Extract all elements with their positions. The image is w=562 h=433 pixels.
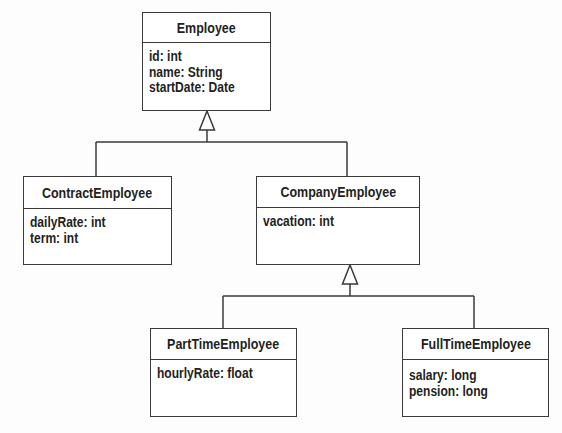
attribute: startDate: Date xyxy=(149,80,253,96)
class-attributes: salary: long pension: long xyxy=(403,360,548,399)
attribute: name: String xyxy=(149,65,253,81)
class-name-header: FullTimeEmployee xyxy=(403,329,548,360)
uml-class-diagram: Employee id: int name: String startDate:… xyxy=(0,0,562,433)
attribute: pension: long xyxy=(409,384,529,400)
class-name: PartTimeEmployee xyxy=(167,336,279,352)
attribute: hourlyRate: float xyxy=(157,366,277,382)
generalization-arrow-company-employee xyxy=(223,265,474,328)
hollow-triangle-arrowhead-icon xyxy=(200,111,215,130)
attribute: dailyRate: int xyxy=(30,215,151,231)
class-name: CompanyEmployee xyxy=(280,184,396,200)
class-name-header: PartTimeEmployee xyxy=(151,329,296,360)
attribute: term: int xyxy=(30,231,151,247)
attribute: id: int xyxy=(149,49,253,65)
class-attributes: vacation: int xyxy=(257,208,419,230)
class-name-header: ContractEmployee xyxy=(24,177,171,209)
class-attributes: dailyRate: int term: int xyxy=(24,209,171,246)
class-attributes: id: int name: String startDate: Date xyxy=(143,43,270,96)
class-employee: Employee id: int name: String startDate:… xyxy=(142,12,271,111)
class-full-time-employee: FullTimeEmployee salary: long pension: l… xyxy=(402,328,549,417)
class-company-employee: CompanyEmployee vacation: int xyxy=(256,176,420,265)
attribute: salary: long xyxy=(409,368,529,384)
class-attributes: hourlyRate: float xyxy=(151,360,296,382)
attribute: vacation: int xyxy=(263,214,397,230)
hollow-triangle-arrowhead-icon xyxy=(343,265,358,284)
class-name: FullTimeEmployee xyxy=(421,336,531,352)
class-part-time-employee: PartTimeEmployee hourlyRate: float xyxy=(150,328,297,417)
class-contract-employee: ContractEmployee dailyRate: int term: in… xyxy=(23,176,172,265)
class-name: ContractEmployee xyxy=(42,185,152,201)
class-name-header: CompanyEmployee xyxy=(257,177,419,208)
class-name: Employee xyxy=(177,20,236,36)
class-name-header: Employee xyxy=(143,13,270,43)
generalization-arrow-employee xyxy=(96,111,347,176)
